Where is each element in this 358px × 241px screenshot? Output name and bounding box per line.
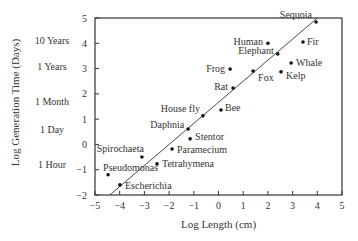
x-tick-label: 3 [290,200,295,211]
y-axis-label: Log Generation Time (Days) [9,38,22,166]
point-label: Kelp [286,70,305,81]
point-label: Whale [296,57,323,68]
y-time-label: 1 Years [37,61,67,72]
point-label: Fox [258,72,274,83]
x-tick-label: 4 [315,200,320,211]
point-label: Tetrahymena [162,158,215,169]
point-label: Frog [206,63,225,74]
x-tick-label: −3 [139,200,150,211]
point-label: Stentor [195,131,225,142]
data-point [201,114,205,118]
y-tick-label: −1 [76,164,87,175]
data-point [186,127,190,131]
y-tick-label: 5 [82,13,87,24]
data-point [276,52,280,56]
scatter-chart: −5−4−3−2−1012345−2−101234510 Years1 Year… [0,0,358,241]
y-tick-label: 1 [82,114,87,125]
x-tick-label: 2 [265,200,270,211]
point-label: Spirochaeta [97,143,145,154]
data-point [301,40,305,44]
point-label: Fir [307,36,319,47]
data-point [231,86,235,90]
y-time-label: 1 Hour [38,159,67,170]
x-tick-label: 1 [241,200,246,211]
y-tick-label: 4 [82,38,87,49]
data-point [289,61,293,65]
point-label: Elephant [238,45,274,56]
point-label: Rat [214,81,228,92]
y-time-label: 1 Day [40,124,64,135]
point-label: Escherichia [125,180,172,191]
data-point [251,69,255,73]
y-time-label: 10 Years [35,35,70,46]
x-tick-label: 5 [340,200,345,211]
point-label: Pseudomonas [103,162,158,173]
point-label: Sequoia [280,9,313,20]
y-tick-label: −2 [76,190,87,201]
data-point [188,137,192,141]
x-tick-label: −1 [188,200,199,211]
data-point [219,108,223,112]
data-point [140,155,144,159]
point-label: Paramecium [177,144,227,155]
point-label: Bee [225,102,241,113]
data-point [314,20,318,24]
y-tick-label: 3 [82,63,87,74]
x-tick-label: −4 [114,200,125,211]
data-point [170,147,174,151]
x-tick-label: −2 [164,200,175,211]
x-tick-label: −5 [90,200,101,211]
y-tick-label: 2 [82,88,87,99]
point-label: Daphnia [150,119,184,130]
data-point [228,67,232,71]
y-tick-label: 0 [82,139,87,150]
data-point [118,183,122,187]
point-label: House fly [161,103,200,114]
x-tick-label: 0 [216,200,221,211]
data-point [279,70,283,74]
data-point [106,173,110,177]
x-axis-label: Log Length (cm) [181,218,256,231]
y-time-label: 1 Month [35,96,69,107]
